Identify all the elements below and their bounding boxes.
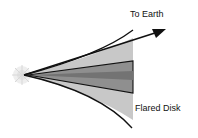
to-earth-label: To Earth xyxy=(130,9,164,19)
flared-disk-label: Flared Disk xyxy=(135,103,181,113)
flared-disk-diagram xyxy=(0,0,198,138)
